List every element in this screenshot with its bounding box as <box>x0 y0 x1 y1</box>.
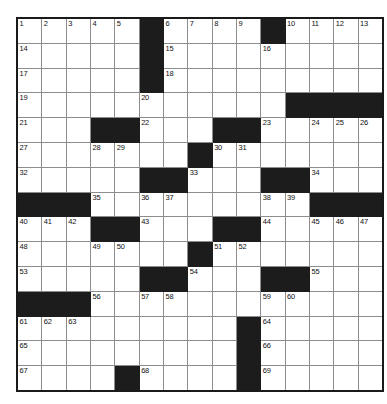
crossword-cell[interactable] <box>334 366 358 391</box>
crossword-cell[interactable] <box>188 43 212 68</box>
crossword-cell-numbered[interactable]: 26 <box>358 118 383 143</box>
crossword-cell[interactable] <box>358 266 383 291</box>
crossword-cell[interactable] <box>236 291 260 316</box>
crossword-cell[interactable] <box>42 118 66 143</box>
crossword-cell[interactable] <box>42 242 66 267</box>
crossword-cell[interactable] <box>334 68 358 93</box>
crossword-cell[interactable] <box>358 341 383 366</box>
crossword-cell[interactable] <box>358 242 383 267</box>
crossword-cell-numbered[interactable]: 14 <box>17 43 42 68</box>
crossword-cell-numbered[interactable]: 2 <box>42 18 66 43</box>
crossword-cell[interactable] <box>66 366 90 391</box>
crossword-cell[interactable] <box>358 43 383 68</box>
crossword-cell-numbered[interactable]: 56 <box>90 291 114 316</box>
crossword-cell[interactable] <box>285 43 309 68</box>
crossword-cell[interactable] <box>188 291 212 316</box>
crossword-cell-numbered[interactable]: 43 <box>139 217 163 242</box>
crossword-cell-numbered[interactable]: 13 <box>358 18 383 43</box>
crossword-cell[interactable] <box>236 167 260 192</box>
crossword-cell[interactable] <box>334 291 358 316</box>
crossword-cell[interactable] <box>188 93 212 118</box>
crossword-cell[interactable] <box>285 68 309 93</box>
crossword-cell[interactable] <box>163 142 187 167</box>
crossword-cell[interactable] <box>42 167 66 192</box>
crossword-cell[interactable] <box>42 43 66 68</box>
crossword-cell[interactable] <box>188 68 212 93</box>
crossword-cell[interactable] <box>139 242 163 267</box>
crossword-cell-numbered[interactable]: 4 <box>90 18 114 43</box>
crossword-cell[interactable] <box>358 366 383 391</box>
crossword-cell-numbered[interactable]: 65 <box>17 341 42 366</box>
crossword-cell[interactable] <box>358 68 383 93</box>
crossword-cell-numbered[interactable]: 20 <box>139 93 163 118</box>
crossword-cell[interactable] <box>236 192 260 217</box>
crossword-cell-numbered[interactable]: 38 <box>261 192 285 217</box>
crossword-cell[interactable] <box>309 242 333 267</box>
crossword-cell-numbered[interactable]: 64 <box>261 316 285 341</box>
crossword-cell[interactable] <box>261 142 285 167</box>
crossword-cell[interactable] <box>163 217 187 242</box>
crossword-cell[interactable] <box>358 291 383 316</box>
crossword-cell[interactable] <box>212 43 236 68</box>
crossword-cell[interactable] <box>66 93 90 118</box>
crossword-cell[interactable] <box>90 167 114 192</box>
crossword-cell-numbered[interactable]: 12 <box>334 18 358 43</box>
crossword-cell-numbered[interactable]: 51 <box>212 242 236 267</box>
crossword-cell[interactable] <box>163 341 187 366</box>
crossword-cell-numbered[interactable]: 46 <box>334 217 358 242</box>
crossword-cell-numbered[interactable]: 66 <box>261 341 285 366</box>
crossword-cell-numbered[interactable]: 47 <box>358 217 383 242</box>
crossword-cell-numbered[interactable]: 33 <box>188 167 212 192</box>
crossword-cell[interactable] <box>358 316 383 341</box>
crossword-cell-numbered[interactable]: 15 <box>163 43 187 68</box>
crossword-cell[interactable] <box>42 68 66 93</box>
crossword-cell-numbered[interactable]: 57 <box>139 291 163 316</box>
crossword-cell[interactable] <box>212 167 236 192</box>
crossword-cell[interactable] <box>90 316 114 341</box>
crossword-cell-numbered[interactable]: 42 <box>66 217 90 242</box>
crossword-cell-numbered[interactable]: 54 <box>188 266 212 291</box>
crossword-cell[interactable] <box>66 142 90 167</box>
crossword-cell-numbered[interactable]: 44 <box>261 217 285 242</box>
crossword-cell[interactable] <box>309 291 333 316</box>
crossword-cell[interactable] <box>212 341 236 366</box>
crossword-cell-numbered[interactable]: 9 <box>236 18 260 43</box>
crossword-cell[interactable] <box>334 266 358 291</box>
crossword-cell[interactable] <box>285 341 309 366</box>
crossword-cell-numbered[interactable]: 59 <box>261 291 285 316</box>
crossword-cell[interactable] <box>236 43 260 68</box>
crossword-cell[interactable] <box>163 316 187 341</box>
crossword-cell[interactable] <box>285 242 309 267</box>
crossword-cell[interactable] <box>334 167 358 192</box>
crossword-cell-numbered[interactable]: 23 <box>261 118 285 143</box>
crossword-cell[interactable] <box>212 316 236 341</box>
crossword-cell-numbered[interactable]: 62 <box>42 316 66 341</box>
crossword-cell[interactable] <box>285 316 309 341</box>
crossword-cell[interactable] <box>42 266 66 291</box>
crossword-cell[interactable] <box>309 316 333 341</box>
crossword-cell[interactable] <box>115 316 139 341</box>
crossword-cell-numbered[interactable]: 35 <box>90 192 114 217</box>
crossword-cell-numbered[interactable]: 32 <box>17 167 42 192</box>
crossword-cell-numbered[interactable]: 22 <box>139 118 163 143</box>
crossword-cell[interactable] <box>188 366 212 391</box>
crossword-cell[interactable] <box>261 93 285 118</box>
crossword-cell[interactable] <box>212 68 236 93</box>
crossword-cell-numbered[interactable]: 1 <box>17 18 42 43</box>
crossword-cell[interactable] <box>236 93 260 118</box>
crossword-cell-numbered[interactable]: 63 <box>66 316 90 341</box>
crossword-cell[interactable] <box>42 142 66 167</box>
crossword-cell[interactable] <box>139 316 163 341</box>
crossword-cell-numbered[interactable]: 29 <box>115 142 139 167</box>
crossword-cell[interactable] <box>66 118 90 143</box>
crossword-cell[interactable] <box>90 266 114 291</box>
crossword-cell-numbered[interactable]: 67 <box>17 366 42 391</box>
crossword-cell[interactable] <box>90 43 114 68</box>
crossword-cell-numbered[interactable]: 31 <box>236 142 260 167</box>
crossword-cell[interactable] <box>90 93 114 118</box>
crossword-cell[interactable] <box>285 217 309 242</box>
crossword-cell[interactable] <box>309 68 333 93</box>
crossword-cell[interactable] <box>358 167 383 192</box>
crossword-cell[interactable] <box>309 366 333 391</box>
crossword-cell[interactable] <box>236 266 260 291</box>
